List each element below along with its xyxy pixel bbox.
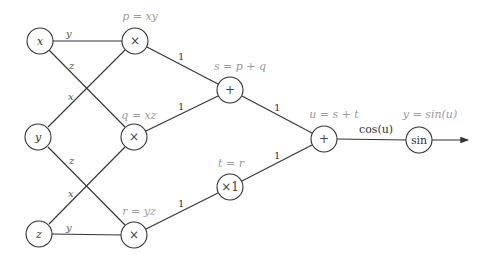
edge-labels: y z x z x y 1 1 1 1 1 cos(u) [65,28,393,233]
node-sin-annotation: y = sin(u) [402,108,457,121]
node-u-annotation: u = s + t [309,108,359,121]
edge-label-s-u: 1 [274,102,280,113]
node-sin-op: sin [411,134,427,147]
node-q-annotation: q = xz [121,109,156,122]
node-z: z [26,221,52,247]
edge-label-x-p: y [65,28,72,39]
edge-label-q-s: 1 [178,101,184,112]
node-t-op: ×1 [221,180,239,194]
edge-label-t-u: 1 [274,150,280,161]
edge-label-u-out: cos(u) [359,123,393,136]
node-t: ×1 t = r [217,157,245,200]
edge-label-y-p: x [68,91,74,102]
edge-label-y-r: z [68,155,75,166]
node-s-op: + [225,83,235,97]
node-t-annotation: t = r [218,157,245,170]
edge-label-x-q: z [68,60,75,71]
computational-graph: y z x z x y 1 1 1 1 1 cos(u) x y z × p =… [0,0,491,264]
node-x-label: x [37,35,44,48]
edge-u-out [337,139,406,140]
edge-label-z-q: x [68,188,74,199]
edge-label-r-t: 1 [178,198,184,209]
node-y-label: y [34,131,42,144]
node-p-op: × [130,34,140,48]
node-sin: sin y = sin(u) [402,108,457,153]
node-s-annotation: s = p + q [214,60,266,73]
node-p-annotation: p = xy [122,10,158,23]
edge-label-z-r: y [65,222,72,233]
node-y-input: y [25,124,51,150]
node-q-op: × [129,130,139,144]
node-p: × p = xy [122,10,159,54]
edge-z-r [52,234,121,235]
node-q: × q = xz [121,109,157,150]
edge-label-p-s: 1 [178,51,184,62]
edge-z-q [49,147,125,224]
node-u-op: + [319,132,329,146]
node-z-label: z [35,228,42,241]
node-x: x [27,28,53,54]
node-s: + s = p + q [214,60,266,103]
node-r-op: × [129,228,139,242]
node-r-annotation: r = yz [122,205,156,218]
node-u: + u = s + t [309,108,359,152]
